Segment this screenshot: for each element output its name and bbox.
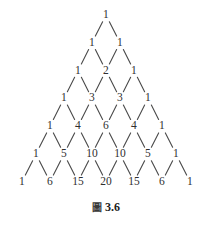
pascal-cell: 15 xyxy=(128,176,140,188)
pascal-cell: 1 xyxy=(103,9,109,21)
pascal-cell: 3 xyxy=(117,93,123,105)
figure-caption: 圖3.6 xyxy=(0,199,212,215)
pascal-cell: 1 xyxy=(159,120,165,132)
pascal-triangle-diagram: 111121133114641151010511615201561 xyxy=(0,0,212,196)
figure-number-label: 3.6 xyxy=(105,200,120,214)
pascal-cell: 4 xyxy=(75,120,81,132)
pascal-cell: 10 xyxy=(86,148,98,160)
pascal-cell: 6 xyxy=(159,176,165,188)
pascal-node-layer: 111121133114641151010511615201561 xyxy=(0,0,212,196)
pascal-cell: 1 xyxy=(145,93,151,105)
pascal-cell: 1 xyxy=(187,176,193,188)
pascal-cell: 1 xyxy=(131,65,137,77)
pascal-cell: 1 xyxy=(33,148,39,160)
pascal-cell: 20 xyxy=(100,176,112,188)
pascal-cell: 1 xyxy=(61,93,67,105)
pascal-cell: 1 xyxy=(75,65,81,77)
pascal-cell: 4 xyxy=(131,120,137,132)
pascal-cell: 1 xyxy=(19,176,25,188)
pascal-cell: 15 xyxy=(72,176,84,188)
pascal-cell: 1 xyxy=(117,37,123,49)
pascal-cell: 5 xyxy=(145,148,151,160)
pascal-cell: 5 xyxy=(61,148,67,160)
pascal-cell: 10 xyxy=(114,148,126,160)
pascal-cell: 1 xyxy=(89,37,95,49)
pascal-cell: 1 xyxy=(173,148,179,160)
pascal-cell: 3 xyxy=(89,93,95,105)
pascal-cell: 6 xyxy=(103,120,109,132)
caption-inner: 圖3.6 xyxy=(92,199,120,215)
pascal-cell: 1 xyxy=(47,120,53,132)
pascal-cell: 6 xyxy=(47,176,53,188)
figure-glyph-icon: 圖 xyxy=(92,202,102,213)
figure-container: 111121133114641151010511615201561 圖3.6 xyxy=(0,0,212,227)
pascal-cell: 2 xyxy=(103,65,109,77)
